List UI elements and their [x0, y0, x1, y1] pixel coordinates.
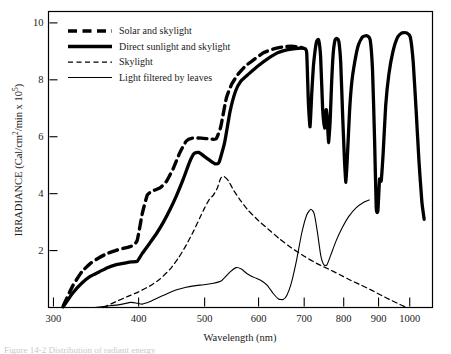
- x-tick-label-300: 300: [46, 313, 62, 324]
- figure-caption: Figure 14-2 Distribution of radiant ener…: [4, 345, 156, 354]
- spectral-irradiance-chart: 246810 3004005006007008009001000 Solar a…: [0, 0, 451, 354]
- x-tick-label-700: 700: [296, 313, 312, 324]
- legend-label-solar-and-skylight: Solar and skylight: [119, 25, 192, 36]
- x-tick-label-800: 800: [336, 313, 352, 324]
- y-tick-label-6: 6: [38, 131, 43, 142]
- y-tick-label-4: 4: [38, 188, 44, 199]
- x-tick-label-1000: 1000: [399, 313, 420, 324]
- figure-container: 246810 3004005006007008009001000 Solar a…: [0, 0, 451, 354]
- x-tick-label-500: 500: [197, 313, 213, 324]
- x-axis-title: Wavelength (nm): [204, 332, 277, 344]
- y-tick-label-2: 2: [38, 245, 43, 256]
- x-tick-label-900: 900: [371, 313, 387, 324]
- legend-label-direct-sunlight-and-skylight: Direct sunlight and skylight: [119, 41, 231, 52]
- legend-label-skylight: Skylight: [119, 56, 153, 67]
- y-axis-title-main: IRRADIANCE (Cal/cm: [13, 135, 25, 236]
- legend-label-light-filtered-by-leaves: Light filtered by leaves: [119, 72, 212, 83]
- y-axis-title-mid: /min x 10: [13, 91, 24, 131]
- y-axis-title-close: ): [13, 83, 25, 87]
- x-tick-label-600: 600: [251, 313, 267, 324]
- y-tick-label-10: 10: [33, 17, 44, 28]
- y-tick-label-8: 8: [38, 74, 43, 85]
- x-tick-label-400: 400: [131, 313, 147, 324]
- svg-text:IRRADIANCE (Cal/cm2/min x 105): IRRADIANCE (Cal/cm2/min x 105): [11, 83, 26, 236]
- y-axis-title: IRRADIANCE (Cal/cm2/min x 105): [11, 83, 26, 236]
